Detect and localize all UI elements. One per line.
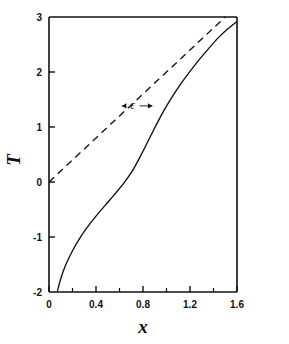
y-tick-labels: -2-10123 — [33, 12, 42, 298]
annotation-epsilon: ε — [122, 98, 153, 112]
y-tick-label: 0 — [36, 177, 42, 188]
x-axis-title: x — [137, 316, 148, 337]
epsilon-right-arrowhead — [148, 103, 153, 108]
x-tick-label: 0.4 — [89, 299, 103, 310]
epsilon-left-arrowhead — [122, 103, 127, 108]
data-series — [49, 17, 237, 292]
y-tick-label: -1 — [33, 232, 42, 243]
x-tick-label: 1.6 — [230, 299, 244, 310]
series-solid-curve — [57, 21, 237, 292]
plot-frame — [49, 17, 237, 292]
chart-plot: 00.40.81.21.6 -2-10123 ε T x — [0, 0, 289, 344]
y-tick-label: 3 — [36, 12, 42, 23]
figure-container: 00.40.81.21.6 -2-10123 ε T x — [0, 0, 289, 344]
x-tick-labels: 00.40.81.21.6 — [46, 299, 244, 310]
y-axis-title-text: T — [3, 153, 24, 166]
y-tick-label: 1 — [36, 122, 42, 133]
epsilon-label: ε — [130, 98, 135, 112]
y-tick-label: 2 — [36, 67, 42, 78]
x-axis-title-text: x — [137, 316, 148, 337]
x-tick-label: 0.8 — [136, 299, 150, 310]
x-tick-label: 0 — [46, 299, 52, 310]
axis-ticks — [49, 72, 237, 292]
x-tick-label: 1.2 — [183, 299, 197, 310]
y-axis-title: T — [3, 153, 24, 166]
series-dashed-line — [49, 17, 225, 182]
y-tick-label: -2 — [33, 287, 42, 298]
